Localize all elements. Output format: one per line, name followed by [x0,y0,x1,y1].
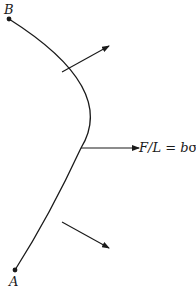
force-lhs: F/L [139,140,161,155]
lower-normal-arrow [62,222,109,248]
point-a-label: A [9,275,18,288]
force-per-length-label: F/L = bσ [139,141,196,154]
point-a-dot [13,268,18,273]
sigma-symbol: σ [189,140,196,155]
equals-sign: = [165,140,176,155]
point-b-dot [7,17,12,22]
curved-surface-arc [9,19,90,270]
point-b-label: B [4,3,14,16]
force-rhs-var: b [180,140,188,155]
upper-normal-arrow [62,46,109,72]
